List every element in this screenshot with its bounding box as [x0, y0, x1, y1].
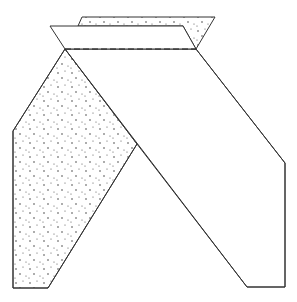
front-strip-top: [50, 26, 196, 49]
folded-strip-diagram: [0, 0, 297, 302]
